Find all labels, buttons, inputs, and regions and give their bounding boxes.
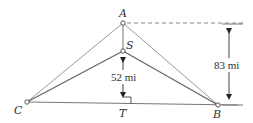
point-S [121,49,125,53]
label-A: A [118,7,127,20]
point-C [25,100,29,104]
label-B: B [212,108,221,121]
dimension-label-52mi: 52 mi [111,71,136,83]
dimension-label-83mi: 83 mi [214,59,239,71]
segment-AB [123,23,218,105]
segment-SC [27,51,123,102]
label-T: T [119,107,128,120]
segment-AC [27,23,123,102]
label-C: C [14,104,23,117]
baseline-CB [27,102,238,105]
point-A [121,21,125,25]
geometry-diagram: 83 mi 52 mi A S C T B [0,0,253,123]
label-S: S [126,39,134,52]
point-B [216,103,220,107]
